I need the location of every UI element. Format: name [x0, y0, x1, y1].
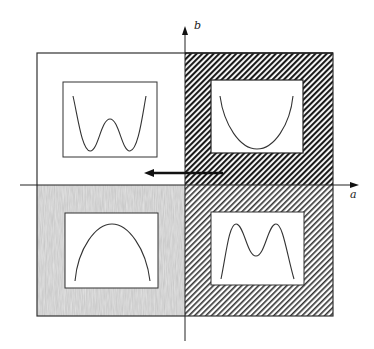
axis-label-b: b — [194, 19, 201, 32]
inset-double-hump — [211, 212, 304, 285]
phase-diagram — [0, 0, 374, 349]
arrowhead-up-icon — [182, 26, 188, 35]
inset-single-well — [211, 80, 303, 153]
inset-double-well — [63, 82, 157, 157]
inset-inverted-parabola — [65, 213, 158, 288]
axis-label-a: a — [350, 188, 357, 201]
